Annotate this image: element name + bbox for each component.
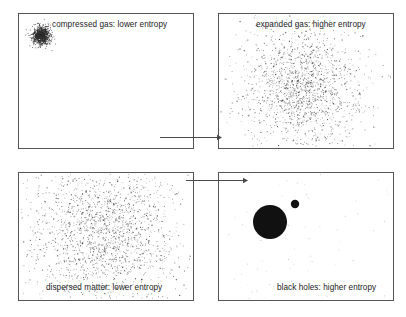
particle	[310, 261, 311, 262]
particle	[386, 190, 387, 191]
particle	[271, 127, 272, 128]
particle	[115, 232, 116, 233]
particle	[97, 212, 98, 213]
particle	[72, 181, 73, 182]
particle	[281, 108, 282, 109]
particle	[81, 217, 82, 218]
particle	[39, 42, 40, 43]
particle	[45, 252, 46, 253]
particle	[290, 102, 291, 103]
particle	[257, 91, 258, 92]
particle	[305, 112, 306, 113]
particle	[332, 133, 333, 134]
particle	[287, 93, 288, 94]
particle	[50, 29, 51, 30]
particle	[330, 90, 331, 91]
particle	[110, 242, 111, 243]
particle	[131, 197, 132, 198]
particle	[109, 196, 110, 197]
particle	[319, 79, 320, 80]
particle	[99, 184, 100, 185]
particle	[101, 204, 102, 205]
particle	[106, 218, 107, 219]
particle	[51, 36, 52, 37]
particle	[281, 44, 282, 45]
particle	[79, 198, 80, 199]
particle	[164, 211, 165, 212]
particle	[246, 41, 247, 42]
particle	[311, 82, 312, 83]
particle	[34, 226, 35, 227]
particle	[126, 255, 127, 256]
particle	[28, 282, 29, 283]
particle	[360, 36, 361, 37]
particle	[304, 90, 305, 91]
particle	[120, 243, 121, 244]
particle	[297, 101, 298, 102]
particle	[111, 238, 112, 239]
particle	[275, 39, 276, 40]
particle	[38, 35, 39, 36]
particle	[375, 144, 376, 145]
diagram-canvas	[0, 0, 406, 317]
particle	[61, 219, 62, 220]
particle	[68, 211, 69, 212]
particle	[31, 209, 32, 210]
particle	[101, 265, 102, 266]
particle	[45, 214, 46, 215]
particle	[29, 279, 30, 280]
particle	[345, 145, 346, 146]
particle	[329, 86, 330, 87]
particle	[81, 208, 82, 209]
particle	[74, 178, 75, 179]
particle	[52, 226, 53, 227]
particle	[130, 216, 131, 217]
particle	[133, 205, 134, 206]
particle	[83, 212, 84, 213]
particle	[104, 249, 105, 250]
particle	[60, 245, 61, 246]
particle	[258, 48, 259, 49]
particle	[48, 31, 49, 32]
particle	[289, 116, 290, 117]
particle	[286, 95, 287, 96]
particle	[93, 273, 94, 274]
particle	[109, 245, 110, 246]
particle	[33, 36, 34, 37]
particle	[313, 62, 314, 63]
particle	[291, 281, 292, 282]
particle	[305, 91, 306, 92]
particle	[106, 225, 107, 226]
particle	[289, 74, 290, 75]
particle	[350, 73, 351, 74]
particle	[136, 202, 137, 203]
particle	[150, 234, 151, 235]
particle	[291, 92, 292, 93]
particle	[359, 93, 360, 94]
particle	[133, 180, 134, 181]
particle	[360, 58, 361, 59]
particle	[252, 120, 253, 121]
particle	[294, 102, 295, 103]
particle	[352, 95, 353, 96]
particle	[76, 189, 77, 190]
particle	[89, 247, 90, 248]
particle	[296, 98, 297, 99]
particle	[96, 257, 97, 258]
particle	[303, 96, 304, 97]
particle	[144, 273, 145, 274]
particle	[271, 78, 272, 79]
particle	[266, 124, 267, 125]
particle	[280, 105, 281, 106]
particle	[270, 108, 271, 109]
particle	[112, 248, 113, 249]
particle	[51, 269, 52, 270]
particle	[54, 227, 55, 228]
particle	[301, 62, 302, 63]
particle	[286, 87, 287, 88]
particle	[293, 96, 294, 97]
particle	[76, 196, 77, 197]
particle	[295, 93, 296, 94]
particle	[174, 262, 175, 263]
particle	[314, 33, 315, 34]
